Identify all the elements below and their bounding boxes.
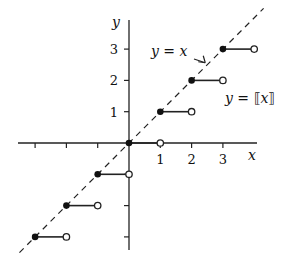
open-endpoint [220,77,226,83]
closed-endpoint [63,202,70,209]
open-endpoint [126,171,132,177]
closed-endpoint [220,46,227,53]
dashed-line-y-equals-x [19,8,263,252]
y-axis-label: y [111,14,121,30]
closed-endpoint [94,171,101,178]
open-endpoint [63,234,69,240]
annotation-floor-x-part: = ⟦ [233,90,261,106]
arrow-head [198,56,205,63]
open-endpoint [95,202,101,208]
x-tick-label: 2 [187,152,195,167]
y-tick-label: 1 [110,105,118,120]
x-axis-label: x [248,147,256,163]
open-endpoint [188,109,194,115]
annotation-y-equals-x: y = x [150,43,188,59]
x-tick-label: 3 [219,152,227,167]
floor-function-chart: 123123 x y y = x y = ⟦x⟧ [0,0,287,269]
y-tick-label: 3 [110,42,118,57]
annotation-floor-x: y = ⟦x⟧ [224,90,275,106]
annotation-arrow [194,56,205,63]
closed-endpoint [157,108,164,115]
open-endpoint [157,140,163,146]
annotation-y-equals-x-part: x [180,43,188,59]
annotation-floor-x-part: ⟧ [268,90,275,106]
x-tick-label: 1 [156,152,164,167]
y-tick-label: 2 [110,73,118,88]
annotation-y-equals-x-part: = [159,43,180,59]
closed-endpoint [126,140,133,147]
identity-line [19,8,263,252]
annotation-floor-x-part: x [261,90,269,106]
closed-endpoint [188,77,195,84]
open-endpoint [251,46,257,52]
closed-endpoint [32,234,39,241]
